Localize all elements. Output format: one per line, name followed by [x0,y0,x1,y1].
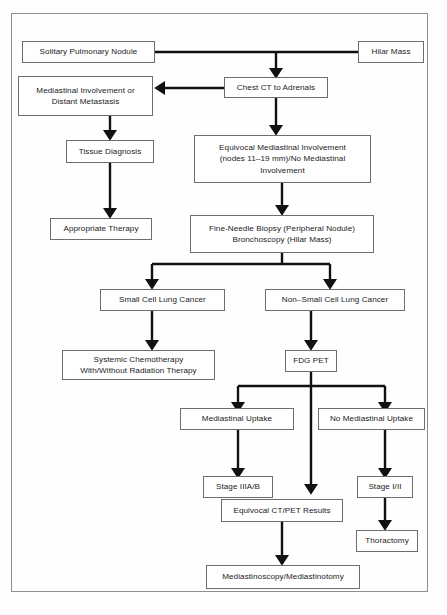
node-no-mediastinal-uptake[interactable]: No Mediastinal Uptake [318,408,425,430]
node-small-cell-lung-cancer[interactable]: Small Cell Lung Cancer [100,289,225,311]
node-solitary-pulmonary-nodule[interactable]: Solitary Pulmonary Nodule [22,41,155,63]
node-stage-iiia-b[interactable]: Stage IIIA/B [203,476,273,498]
node-tissue-diagnosis[interactable]: Tissue Diagnosis [66,140,154,163]
node-equivocal-mediastinal-involvement[interactable]: Equivocal Mediastinal Involvement (nodes… [194,135,371,183]
node-stage-i-ii[interactable]: Stage I/II [357,476,413,498]
node-chest-ct-to-adrenals[interactable]: Chest CT to Adrenals [224,77,328,98]
node-fdg-pet[interactable]: FDG PET [285,350,337,372]
node-appropriate-therapy[interactable]: Appropriate Therapy [50,218,152,240]
node-hilar-mass[interactable]: Hilar Mass [358,41,424,63]
node-mediastinal-involvement-or-distant-metastasis[interactable]: Mediastinal Involvement or Distant Metas… [18,76,153,116]
node-mediastinal-uptake[interactable]: Mediastinal Uptake [180,408,294,430]
node-equivocal-ct-pet-results[interactable]: Equivocal CT/PET Results [221,499,343,522]
node-mediastinoscopy-mediastinotomy[interactable]: Mediastinoscopy/Mediastinotomy [206,565,360,589]
node-thoractomy[interactable]: Thoractomy [356,530,418,552]
node-fine-needle-biopsy[interactable]: Fine-Needle Biopsy (Peripheral Nodule) B… [190,215,374,253]
node-non-small-cell-lung-cancer[interactable]: Non–Small Cell Lung Cancer [265,289,405,311]
flowchart-canvas: Solitary Pulmonary Nodule Hilar Mass Che… [0,0,447,615]
node-systemic-chemotherapy[interactable]: Systemic Chemotherapy With/Without Radia… [62,350,215,380]
